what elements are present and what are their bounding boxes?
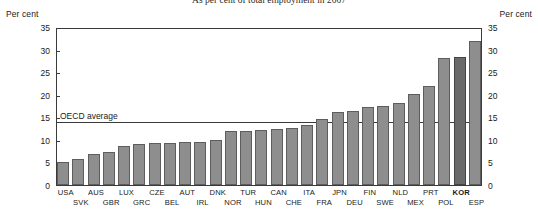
x-axis-label-hun: HUN [255,199,272,207]
x-axis-label-usa: USA [58,189,74,197]
x-axis-label-can: CAN [270,189,286,197]
x-axis-label-gbr: GBR [103,199,120,207]
x-axis-label-svk: SVK [73,199,89,207]
bar-grc [133,144,145,185]
x-axis-label-irl: IRL [196,199,208,207]
y-tick-label-left: 15 [24,114,50,123]
x-axis-label-nor: NOR [224,199,241,207]
y-tick-label-left: 25 [24,69,50,78]
y-tick-label-left: 20 [24,92,50,101]
bar-hun [255,130,267,185]
x-axis-label-fra: FRA [317,199,333,207]
bar-deu [347,111,359,185]
x-axis-label-prt: PRT [423,189,438,197]
x-axis-label-aus: AUS [88,189,104,197]
x-axis-label-swe: SWE [376,199,394,207]
y-tick-label-right: 15 [488,114,514,123]
bar-dnk [210,140,222,185]
x-axis-label-bel: BEL [165,199,180,207]
x-axis-labels: USASVKAUSGBRLUXGRCCZEBELAUTIRLDNKNORTURH… [57,187,481,221]
x-axis-label-dnk: DNK [210,189,226,197]
bar-cze [149,143,161,185]
bar-tur [240,131,252,185]
y-tick-label-right: 20 [488,92,514,101]
bar-bel [164,143,176,185]
bar-esp [469,41,481,185]
x-axis-label-ita: ITA [303,189,315,197]
bar-nor [225,131,237,185]
x-axis-label-mex: MEX [407,199,424,207]
x-axis-label-che: CHE [286,199,302,207]
y-tick-label-right: 5 [488,159,514,168]
x-axis-label-jpn: JPN [332,189,347,197]
y-tick-label-right: 35 [488,24,514,33]
x-axis-label-kor: KOR [453,189,470,197]
bar-che [286,128,298,185]
y-tick-label-right: 25 [488,69,514,78]
bar-swe [377,106,389,185]
bar-series [57,29,481,185]
bar-ita [301,125,313,185]
bar-gbr [103,152,115,185]
x-axis-label-cze: CZE [149,189,165,197]
x-axis-label-aut: AUT [180,189,196,197]
bar-jpn [332,112,344,185]
chart-title: As per cent of total employment in 2007 [0,0,538,6]
bar-usa [57,162,69,185]
x-axis-label-grc: GRC [133,199,150,207]
bar-aut [179,142,191,185]
y-tick-label-left: 35 [24,24,50,33]
bar-mex [408,94,420,185]
y-axis-unit-left: Per cent [6,9,38,19]
chart-figure: As per cent of total employment in 2007 … [0,0,538,224]
y-tick-label-right: 0 [488,182,514,191]
bar-aus [88,154,100,185]
x-axis-label-fin: FIN [364,189,377,197]
bar-irl [194,142,206,185]
y-tick-label-right: 30 [488,47,514,56]
y-axis-unit-right: Per cent [500,9,532,19]
bar-fin [362,107,374,185]
bar-prt [423,86,435,185]
bar-kor [454,57,466,185]
bar-fra [316,119,328,185]
x-axis-label-deu: DEU [347,199,363,207]
bar-nld [393,103,405,185]
x-axis-label-nld: NLD [393,189,409,197]
y-tick-label-left: 30 [24,47,50,56]
bar-lux [118,146,130,185]
x-axis-label-tur: TUR [240,189,256,197]
y-tick-label-left: 0 [24,182,50,191]
x-axis-label-lux: LUX [119,189,134,197]
y-tick-label-left: 10 [24,137,50,146]
x-axis-label-esp: ESP [469,199,485,207]
bar-can [271,129,283,185]
y-tick-label-right: 10 [488,137,514,146]
bar-pol [438,58,450,185]
bar-svk [72,159,84,185]
y-tick-label-left: 5 [24,159,50,168]
x-axis-label-pol: POL [438,199,454,207]
